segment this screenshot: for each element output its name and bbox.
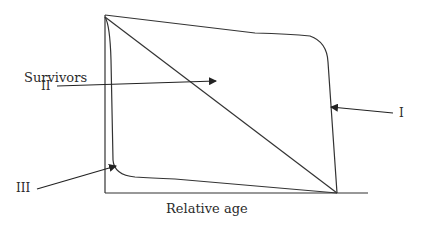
pointer-arrow-i xyxy=(331,107,393,113)
x-axis-label: Relative age xyxy=(166,201,248,216)
curve-label-iii: III xyxy=(16,181,30,195)
pointer-arrow-iii xyxy=(37,166,116,189)
y-axis-label: Survivors xyxy=(24,70,87,85)
curve-label-ii: II xyxy=(41,79,51,93)
curve-type-ii xyxy=(105,17,337,193)
curve-label-i: I xyxy=(399,106,404,120)
axes xyxy=(105,15,368,193)
survivorship-diagram: Survivors Relative age II I III xyxy=(0,0,426,230)
